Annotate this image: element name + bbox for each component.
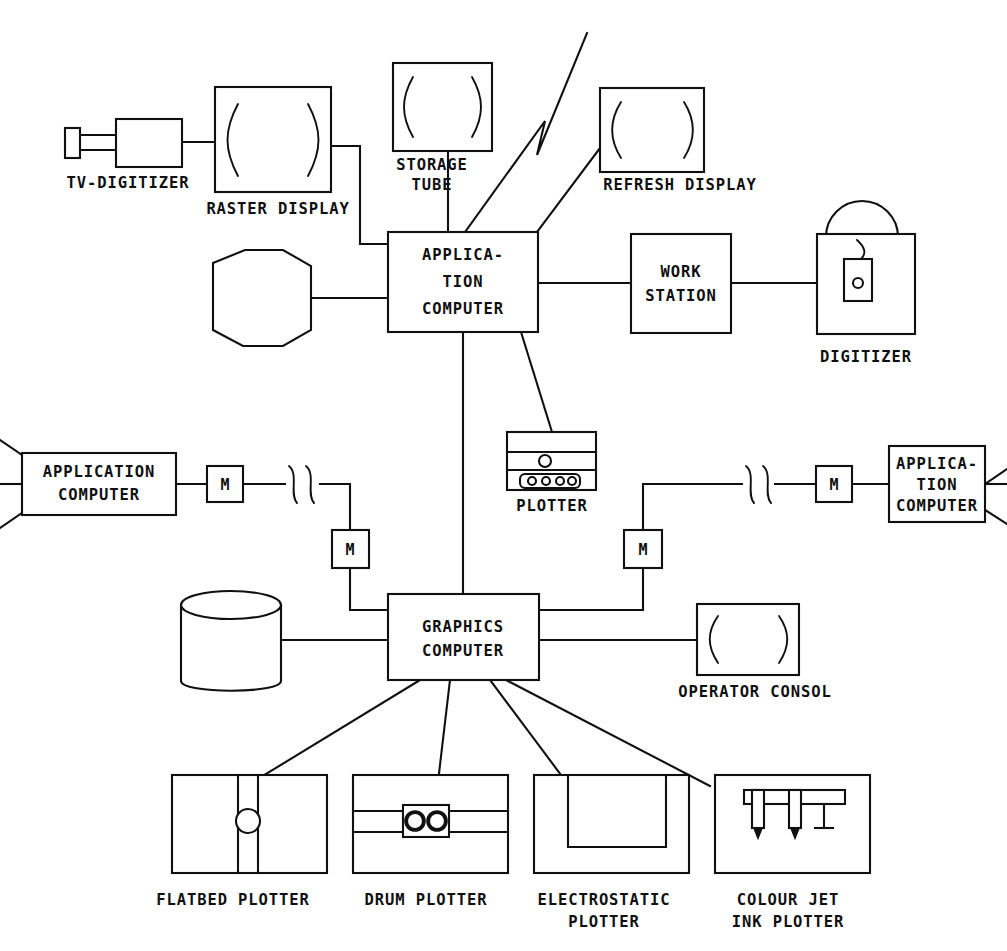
work-station-label-1: WORK [661, 263, 702, 281]
node-drum-plotter[interactable] [353, 775, 508, 873]
node-colour-jet-ink-plotter[interactable] [715, 775, 870, 873]
node-modem-left-outer[interactable]: M [207, 466, 243, 502]
node-raster-display[interactable]: RASTER DISPLAY [206, 87, 349, 218]
application-computer-right-label-1: APPLICA- [896, 455, 978, 473]
node-graphics-computer[interactable]: GRAPHICS COMPUTER [388, 594, 539, 680]
node-digitizer[interactable]: DIGITIZER [817, 201, 915, 366]
squiggle-left-a [289, 466, 297, 503]
raster-display-screen-icon [215, 87, 331, 192]
node-storage-tube[interactable]: STORAGE TUBE [393, 63, 492, 194]
operator-consol-label: OPERATOR CONSOL [678, 683, 831, 701]
node-work-station[interactable]: WORK STATION [631, 234, 731, 333]
application-computer-center-label-2: TION [443, 273, 484, 291]
operator-consol-screen-icon [697, 604, 799, 675]
modem-left-inner-label: M [345, 541, 354, 559]
application-computer-right-label-3: COMPUTER [896, 497, 978, 515]
graphics-computer-label-2: COMPUTER [422, 642, 504, 660]
link-appcomputer-plotter [521, 332, 552, 432]
link-graphics-flatbed [248, 680, 420, 785]
node-plotter-center[interactable]: PLOTTER [507, 432, 596, 515]
electrostatic-plotter-label-1: ELECTROSTATIC [537, 891, 670, 909]
disk-cylinder-top-icon [181, 591, 281, 619]
application-computer-left-label-1: APPLICATION [43, 463, 156, 481]
node-disk-storage-top[interactable] [213, 250, 311, 346]
squiggle-left-b [306, 466, 314, 503]
link-graphics-drum [438, 680, 450, 782]
link-stub-right-down [985, 510, 1007, 524]
node-modem-left-inner[interactable]: M [332, 530, 369, 568]
disk-storage-icon [213, 250, 311, 346]
storage-tube-label-2: TUBE [412, 176, 453, 194]
node-modem-right-inner[interactable]: M [624, 530, 662, 568]
node-flatbed-plotter[interactable] [172, 775, 327, 873]
plotter-pen-circle-icon [539, 455, 551, 467]
colour-jet-ink-plotter-label-1: COLOUR JET [737, 891, 839, 909]
node-application-computer-right[interactable]: APPLICA- TION COMPUTER [889, 446, 985, 522]
drum-roller-2-inner [429, 813, 445, 829]
graphics-computer-box [388, 594, 539, 680]
camera-body-icon [116, 119, 182, 167]
storage-tube-screen-icon [393, 63, 492, 151]
diagram-canvas: TV-DIGITIZER RASTER DISPLAY STORAGE TUBE… [0, 0, 1007, 951]
ink-jet-pen-1-body [752, 790, 764, 828]
raster-display-label: RASTER DISPLAY [206, 200, 349, 218]
flatbed-pen-head-icon [236, 809, 260, 833]
colour-jet-ink-plotter-label-2: INK PLOTTER [732, 913, 845, 931]
digitizer-label: DIGITIZER [820, 348, 912, 366]
work-station-box [631, 234, 731, 333]
ink-jet-pen-2-body [789, 790, 801, 828]
camera-lens-icon [65, 128, 80, 158]
drum-plotter-label: DRUM PLOTTER [365, 891, 488, 909]
node-tv-digitizer[interactable]: TV-DIGITIZER [65, 119, 189, 192]
digitizer-puck-icon [844, 259, 872, 301]
modem-right-inner-label: M [638, 541, 647, 559]
link-graphics-electrostatic [490, 680, 567, 783]
flatbed-plotter-label: FLATBED PLOTTER [156, 891, 309, 909]
node-application-computer-left[interactable]: APPLICATION COMPUTER [22, 453, 176, 515]
node-electrostatic-plotter[interactable] [534, 775, 689, 873]
refresh-display-label: REFRESH DISPLAY [603, 176, 756, 194]
link-modem2-graphics-left [350, 568, 388, 610]
drum-roller-1-inner [407, 813, 423, 829]
node-operator-consol[interactable]: OPERATOR CONSOL [678, 604, 831, 701]
squiggle-right-a [746, 466, 754, 503]
application-computer-left-label-2: COMPUTER [58, 486, 140, 504]
application-computer-right-label-2: TION [917, 476, 958, 494]
node-disk-storage-bottom[interactable] [181, 591, 281, 691]
modem-left-outer-label: M [220, 476, 229, 494]
work-station-label-2: STATION [645, 287, 717, 305]
electrostatic-plotter-label-2: PLOTTER [568, 913, 640, 931]
application-computer-center-label-1: APPLICA- [422, 246, 504, 264]
node-refresh-display[interactable]: REFRESH DISPLAY [600, 88, 757, 194]
node-modem-right-outer[interactable]: M [816, 466, 852, 502]
plotter-center-label: PLOTTER [516, 497, 588, 515]
storage-tube-label-1: STORAGE [396, 156, 468, 174]
link-raster-appcomputer [331, 146, 388, 244]
link-refresh-appcomputer [537, 148, 600, 232]
node-application-computer-center[interactable]: APPLICA- TION COMPUTER [388, 232, 538, 332]
link-squiggle-modem2-right [643, 484, 742, 530]
graphics-computer-label-1: GRAPHICS [422, 618, 504, 636]
link-squiggle-modem2-left [320, 484, 350, 530]
system-configuration-diagram: TV-DIGITIZER RASTER DISPLAY STORAGE TUBE… [0, 0, 1007, 951]
link-modem2-graphics-right [539, 568, 643, 610]
refresh-display-screen-icon [600, 88, 704, 172]
link-stub-right-up [985, 469, 1007, 484]
squiggle-right-b [763, 466, 771, 503]
link-stub-left-down [0, 513, 22, 528]
link-stub-left-up [0, 440, 22, 455]
tv-digitizer-label: TV-DIGITIZER [67, 174, 190, 192]
application-computer-center-label-3: COMPUTER [422, 300, 504, 318]
modem-right-outer-label: M [829, 476, 838, 494]
bottom-plotter-labels: FLATBED PLOTTER DRUM PLOTTER ELECTROSTAT… [156, 891, 844, 931]
